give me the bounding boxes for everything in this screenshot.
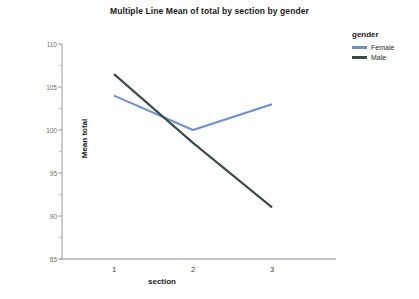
legend-entries: FemaleMale	[352, 44, 416, 61]
y-tick-label: 90	[50, 213, 57, 220]
chart-figure: Multiple Line Mean of total by section b…	[0, 0, 419, 299]
y-tick-label: 105	[46, 84, 57, 91]
y-tick-label: 85	[50, 256, 57, 263]
y-tick-label: 100	[46, 127, 57, 134]
x-tick-label: 2	[191, 265, 195, 274]
axis-spines	[60, 44, 336, 259]
legend-label: Female	[371, 44, 394, 51]
y-tick-label: 110	[47, 41, 57, 48]
x-tick-label: 1	[112, 265, 116, 274]
y-tick-label: 95	[50, 170, 57, 177]
y-axis-label: Mean total	[80, 79, 89, 199]
series-line-male	[114, 74, 272, 207]
x-axis-label: section	[0, 277, 324, 286]
axis-ticks	[58, 44, 62, 259]
legend-swatch-icon	[352, 46, 367, 48]
legend-item-female[interactable]: Female	[352, 44, 416, 51]
plot-area: 859095100105110 123 Mean total	[62, 44, 324, 259]
series-lines	[114, 74, 272, 207]
legend-label: Male	[371, 54, 386, 61]
legend: gender FemaleMale	[352, 30, 416, 64]
legend-title: gender	[352, 30, 416, 39]
x-tick-label: 3	[270, 265, 274, 274]
series-line-female	[114, 96, 272, 130]
legend-swatch-icon	[352, 56, 367, 58]
chart-title: Multiple Line Mean of total by section b…	[0, 6, 419, 16]
plot-canvas	[62, 44, 324, 259]
legend-item-male[interactable]: Male	[352, 54, 416, 61]
